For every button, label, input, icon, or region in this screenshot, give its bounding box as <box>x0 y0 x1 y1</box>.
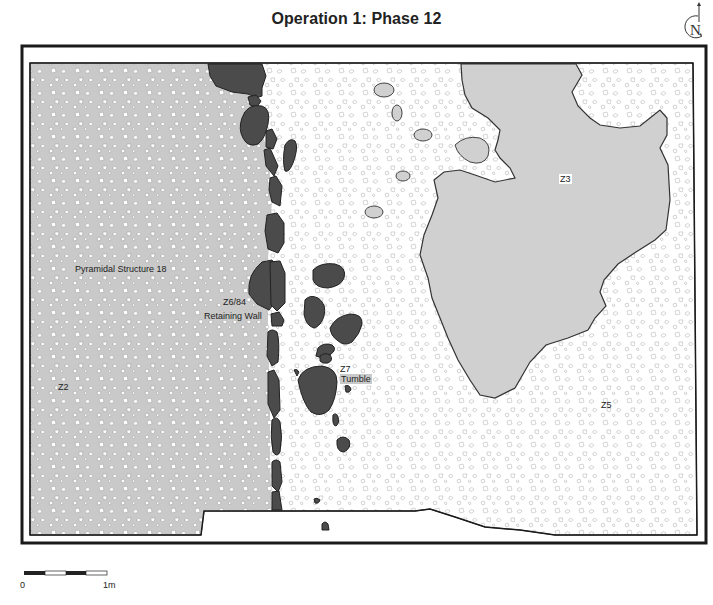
label-z5: Z5 <box>601 400 612 410</box>
label-z6-84: Z6/84 <box>222 297 247 307</box>
label-pyramidal-structure: Pyramidal Structure 18 <box>74 264 168 274</box>
label-z3: Z3 <box>559 174 572 184</box>
label-tumble: Tumble <box>340 374 372 384</box>
scale-end-label: 1m <box>103 580 116 590</box>
scale-start-label: 0 <box>20 580 25 590</box>
label-retaining-wall: Retaining Wall <box>203 311 263 321</box>
label-z7: Z7 <box>339 364 352 374</box>
north-arrow-icon: N <box>676 2 708 44</box>
label-z2: Z2 <box>57 382 70 392</box>
excavation-plan <box>0 0 713 605</box>
scale-bar <box>24 571 107 575</box>
svg-text:N: N <box>690 22 701 38</box>
